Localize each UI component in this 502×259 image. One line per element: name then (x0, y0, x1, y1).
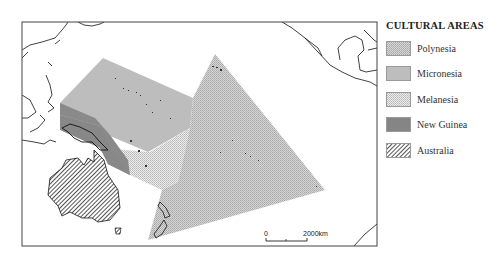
legend-label: Melanesia (417, 94, 458, 105)
legend-title: CULTURAL AREAS (386, 20, 502, 31)
legend-label: Polynesia (417, 43, 456, 54)
legend: CULTURAL AREAS Polynesia Micronesia Mela… (386, 20, 502, 168)
scale-end-label: 2000km (303, 230, 328, 237)
legend-item-new-guinea: New Guinea (386, 117, 502, 133)
legend-item-polynesia: Polynesia (386, 40, 502, 56)
new-guinea-swatch-icon (386, 117, 411, 132)
legend-item-australia: Australia (386, 142, 502, 158)
scale-bar: 0 2000km (264, 230, 328, 241)
melanesia-swatch-icon (386, 92, 411, 107)
micronesia-swatch-icon (386, 66, 411, 81)
legend-label: Micronesia (417, 68, 462, 79)
legend-label: New Guinea (417, 119, 467, 130)
scale-start-label: 0 (264, 230, 268, 237)
americas-coast (282, 22, 377, 86)
australia-swatch-icon (386, 143, 411, 158)
polynesia-swatch-icon (386, 41, 411, 56)
legend-label: Australia (417, 145, 454, 156)
legend-item-melanesia: Melanesia (386, 91, 502, 107)
legend-item-micronesia: Micronesia (386, 66, 502, 82)
